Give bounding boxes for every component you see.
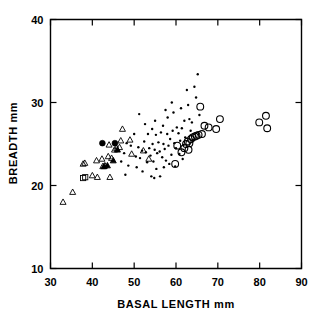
point-dot [125, 142, 127, 144]
point-dot [170, 154, 172, 156]
point-open-circle [264, 125, 271, 132]
x-axis-title: BASAL LENGTH mm [117, 298, 235, 310]
point-filled-circle [99, 140, 105, 146]
point-dot [181, 127, 183, 129]
point-dot [135, 155, 137, 157]
y-tick-label: 20 [31, 180, 43, 192]
point-open-circle [205, 124, 212, 131]
point-dot [163, 166, 165, 168]
point-dot [183, 120, 185, 122]
point-dot [172, 111, 174, 113]
point-dot [186, 89, 188, 91]
point-dot [150, 175, 152, 177]
x-tick-label: 80 [254, 276, 266, 288]
point-dot [197, 73, 199, 75]
x-tick-label: 70 [212, 276, 224, 288]
point-dot [193, 86, 195, 88]
point-dot [166, 116, 168, 118]
point-dot [191, 121, 193, 123]
point-dot [141, 170, 143, 172]
point-dot [164, 109, 166, 111]
scatter-plot-figure: 30405060708090 10203040 BASAL LENGTH mm … [0, 0, 324, 322]
point-open-triangle [119, 126, 125, 131]
point-dot [133, 133, 135, 135]
point-dot [169, 138, 171, 140]
point-dot [151, 143, 153, 145]
point-dot [166, 133, 168, 135]
x-tick-label: 30 [44, 276, 56, 288]
point-open-triangle [70, 189, 76, 194]
point-dot [151, 128, 153, 130]
point-dot [138, 113, 140, 115]
point-dot [164, 148, 166, 150]
point-open-triangle [89, 172, 95, 177]
point-dot [154, 120, 156, 122]
y-tick-label: 40 [31, 14, 43, 26]
point-filled-circle [112, 140, 118, 146]
point-dot [143, 140, 145, 142]
plot-frame [51, 20, 302, 269]
point-open-triangle [94, 157, 100, 162]
point-dot [139, 157, 141, 159]
point-open-circle [256, 119, 263, 126]
point-open-circle [263, 112, 270, 119]
point-dot [124, 174, 126, 176]
point-dot [135, 166, 137, 168]
x-tick-label: 40 [86, 276, 98, 288]
point-open-triangle [118, 138, 124, 143]
point-open-circle [174, 142, 181, 149]
point-dot [189, 130, 191, 132]
point-dot [130, 144, 132, 146]
point-dot [165, 159, 167, 161]
x-tick-label: 60 [170, 276, 182, 288]
point-dot [144, 123, 146, 125]
point-open-circle [197, 103, 204, 110]
point-dot [162, 125, 164, 127]
point-dot [145, 151, 147, 153]
point-dot [187, 104, 189, 106]
point-dot [171, 101, 173, 103]
axis-ticks [51, 20, 302, 269]
point-open-triangle [127, 137, 133, 142]
point-dot [180, 107, 182, 109]
x-tick-label: 90 [295, 276, 307, 288]
point-dot [157, 141, 159, 143]
point-open-triangle [60, 199, 66, 204]
y-tick-label: 30 [31, 97, 43, 109]
point-dot [158, 150, 160, 152]
point-open-circle [201, 122, 208, 129]
point-open-triangle [129, 151, 135, 156]
point-dot [179, 139, 181, 141]
point-dot [177, 132, 179, 134]
point-dot [152, 160, 154, 162]
point-dot [159, 175, 161, 177]
point-dot [188, 118, 190, 120]
point-open-triangle [107, 174, 113, 179]
point-open-circle [217, 116, 224, 123]
point-open-circle [213, 126, 220, 133]
plot-canvas: 30405060708090 10203040 BASAL LENGTH mm … [0, 0, 324, 322]
y-tick-label: 10 [31, 263, 43, 275]
point-dot [147, 133, 149, 135]
point-dot [160, 131, 162, 133]
point-dot [195, 96, 197, 98]
point-dot [156, 152, 158, 154]
data-points [60, 73, 271, 204]
point-dot [127, 164, 129, 166]
point-open-triangle [106, 142, 112, 147]
point-dot [141, 149, 143, 151]
point-dot [161, 156, 163, 158]
point-dot [162, 143, 164, 145]
point-dot [198, 114, 200, 116]
point-open-triangle [99, 156, 105, 161]
point-dot [171, 130, 173, 132]
x-tick-labels: 30405060708090 [44, 276, 307, 288]
point-dot [149, 154, 151, 156]
point-dot [176, 126, 178, 128]
y-axis-title: BREADTH mm [7, 102, 19, 184]
point-dot [148, 147, 150, 149]
point-dot [167, 144, 169, 146]
point-dot [120, 160, 122, 162]
point-dot [153, 149, 155, 151]
point-dot [155, 134, 157, 136]
